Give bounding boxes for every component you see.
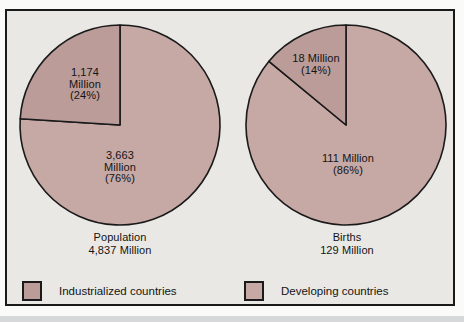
page-bottom-strip: [0, 316, 464, 322]
births-caption: Births 129 Million: [320, 231, 374, 256]
page: 1,174 Million (24%) 3,663 Million (76%) …: [0, 0, 464, 322]
population-pie-chart: [18, 23, 222, 227]
legend-label-industrialized: Industrialized countries: [59, 281, 177, 301]
slice-label-population-industrialized: 1,174 Million (24%): [69, 67, 101, 102]
slice-label-births-developing: 111 Million (86%): [322, 153, 374, 176]
births-pie-chart: [244, 23, 448, 227]
legend-label-developing: Developing countries: [281, 281, 388, 301]
slice-label-births-industrialized: 18 Million (14%): [292, 53, 339, 76]
legend-swatch-industrialized: [22, 281, 42, 301]
slice-label-population-developing: 3,663 Million (76%): [104, 150, 136, 185]
legend-swatch-developing: [244, 281, 264, 301]
population-caption: Population 4,837 Million: [88, 231, 151, 256]
